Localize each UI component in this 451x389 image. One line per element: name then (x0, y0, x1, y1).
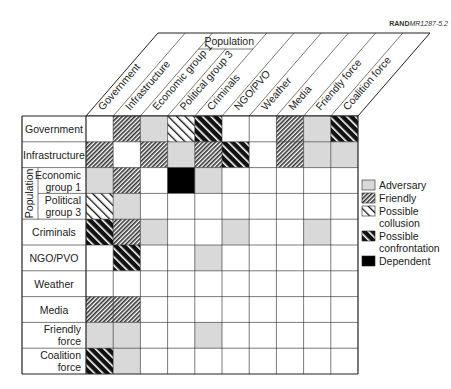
cell-confrontation (222, 142, 249, 168)
cell-adversary (222, 219, 249, 245)
row-label: Criminals (32, 226, 76, 238)
cell-empty (276, 193, 303, 219)
legend-swatch-dependent (362, 256, 375, 266)
legend-label: Dependent (379, 255, 430, 267)
column-header-parallelogram: PopulationGovernmentInfrastructureEconom… (86, 33, 430, 116)
cell-empty (249, 142, 276, 168)
cell-empty (304, 322, 331, 348)
cell-adversary (113, 322, 140, 348)
cell-empty (195, 348, 222, 374)
cell-empty (304, 297, 331, 323)
population-header-label: Population (204, 35, 254, 47)
figure-code: RANDMR1287-5.2 (389, 20, 448, 27)
cell-empty (276, 271, 303, 297)
cell-empty (222, 116, 249, 142)
legend: AdversaryFriendlyPossiblecollusionPossib… (362, 179, 440, 267)
cell-empty (249, 245, 276, 271)
cell-adversary (304, 142, 331, 168)
cell-empty (168, 193, 195, 219)
cell-empty (331, 271, 358, 297)
figure-code-italic: MR1287-5.2 (409, 20, 448, 27)
cell-empty (140, 322, 167, 348)
cell-empty (331, 193, 358, 219)
cell-empty (276, 297, 303, 323)
cell-empty (113, 142, 140, 168)
legend-swatch-adversary (362, 180, 375, 190)
cell-friendly (276, 142, 303, 168)
cell-empty (249, 322, 276, 348)
cell-friendly (276, 116, 303, 142)
cell-empty (304, 245, 331, 271)
cell-empty (276, 322, 303, 348)
cell-confrontation (195, 116, 222, 142)
cell-adversary (86, 322, 113, 348)
cell-empty (140, 297, 167, 323)
relationship-matrix-diagram: RANDMR1287-5.2 PopulationGovernmentInfra… (0, 0, 451, 389)
cell-confrontation (86, 348, 113, 374)
cell-empty (168, 219, 195, 245)
legend-swatch-friendly (362, 193, 375, 203)
legend-item-friendly: Friendly (362, 192, 417, 204)
cell-friendly (86, 297, 113, 323)
cell-adversary (195, 245, 222, 271)
cell-adversary (140, 219, 167, 245)
cell-confrontation (113, 245, 140, 271)
cell-collusion (168, 116, 195, 142)
cell-empty (276, 219, 303, 245)
cell-empty (331, 168, 358, 194)
cell-empty (304, 348, 331, 374)
figure-code-bold: RAND (389, 20, 409, 27)
cell-friendly (86, 142, 113, 168)
cell-empty (140, 245, 167, 271)
cell-empty (249, 271, 276, 297)
legend-label: Possiblecollusion (379, 205, 420, 229)
cell-adversary (113, 348, 140, 374)
cell-empty (168, 322, 195, 348)
cell-empty (276, 348, 303, 374)
cell-empty (168, 348, 195, 374)
cell-empty (222, 193, 249, 219)
cell-friendly (113, 219, 140, 245)
legend-item-confrontation: Possibleconfrontation (362, 230, 440, 254)
cell-empty (195, 271, 222, 297)
cell-empty (249, 297, 276, 323)
cell-dependent (168, 168, 195, 194)
row-label: NGO/PVO (29, 252, 78, 264)
cell-empty (249, 116, 276, 142)
cell-empty (140, 271, 167, 297)
cell-empty (222, 348, 249, 374)
cell-adversary (195, 168, 222, 194)
cell-empty (249, 193, 276, 219)
row-label: Economicgroup 1 (35, 169, 81, 193)
cell-adversary (195, 322, 222, 348)
cell-empty (86, 271, 113, 297)
cell-empty (304, 271, 331, 297)
cell-empty (331, 219, 358, 245)
legend-label: Possibleconfrontation (379, 230, 440, 254)
cell-adversary (113, 193, 140, 219)
cell-empty (86, 245, 113, 271)
cell-empty (222, 168, 249, 194)
cell-empty (222, 297, 249, 323)
cell-adversary (86, 168, 113, 194)
cell-friendly (113, 297, 140, 323)
cell-empty (168, 245, 195, 271)
cell-empty (249, 168, 276, 194)
cell-empty (331, 322, 358, 348)
cell-adversary (168, 142, 195, 168)
cell-empty (222, 322, 249, 348)
row-labels: GovernmentInfrastructureEconomicgroup 1P… (23, 123, 85, 373)
cell-empty (195, 219, 222, 245)
cell-empty (276, 168, 303, 194)
cell-empty (276, 245, 303, 271)
cell-empty (249, 219, 276, 245)
cell-empty (331, 245, 358, 271)
cell-empty (195, 297, 222, 323)
row-label: Media (40, 304, 69, 316)
cell-friendly (140, 142, 167, 168)
cell-confrontation (331, 116, 358, 142)
row-label: Government (25, 123, 83, 135)
cell-empty (195, 193, 222, 219)
population-row-group-label: Population (24, 168, 36, 218)
legend-label: Adversary (379, 179, 427, 191)
